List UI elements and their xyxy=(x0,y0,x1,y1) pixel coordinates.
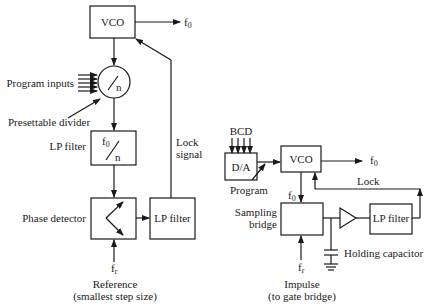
output-label-right: f0 xyxy=(370,154,378,168)
feedback-f0-label: f0 xyxy=(288,189,296,203)
lp-filter-label-right: LP filter xyxy=(373,212,410,224)
lock-label-right: Lock xyxy=(357,175,380,187)
bcd-label: BCD xyxy=(230,125,253,137)
lock-label-1: Lock xyxy=(176,136,199,148)
impulse-caption-2: (to gate bridge) xyxy=(268,290,336,303)
sampling-bridge-box xyxy=(281,203,323,235)
program-inputs-label: Program inputs xyxy=(6,77,74,89)
phase-detector-box xyxy=(91,198,136,239)
n-denominator: n xyxy=(115,151,121,163)
diagram-canvas: VCO f0 Program inputs n Presettable divi… xyxy=(0,0,429,308)
lp-filter-label-2: LP filter xyxy=(154,212,191,224)
output-label-left: f0 xyxy=(184,16,192,30)
amplifier-icon xyxy=(340,208,356,228)
sampling-bridge-label-2: bridge xyxy=(249,218,277,230)
divider-n-label: n xyxy=(116,81,122,93)
sampling-bridge-label-1: Sampling xyxy=(235,206,278,218)
reference-caption-1: Reference xyxy=(93,278,138,290)
program-label: Program xyxy=(230,184,268,196)
phase-detector-label: Phase detector xyxy=(22,212,86,224)
impulse-caption-1: Impulse xyxy=(284,278,320,290)
da-label: D/A xyxy=(232,161,251,173)
reference-caption-2: (smallest step size) xyxy=(73,290,157,303)
lp-filter-label-1: LP filter xyxy=(49,140,86,152)
presettable-divider-label: Presettable divider xyxy=(8,116,91,128)
vco-label-left: VCO xyxy=(101,16,124,28)
vco-label-right: VCO xyxy=(289,153,312,165)
reference-fr-label: fr xyxy=(111,262,118,276)
holding-capacitor-label: Holding capacitor xyxy=(344,247,423,259)
lock-label-2: signal xyxy=(176,148,202,160)
impulse-fr-label: fr xyxy=(298,261,305,275)
f0-numerator: f0 xyxy=(102,135,110,149)
